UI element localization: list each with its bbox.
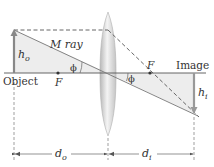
image-label: Image: [176, 59, 209, 71]
angle-label-right: ϕ: [128, 73, 135, 84]
object-distance-label: do: [55, 147, 67, 162]
angle-label-left: ϕ: [70, 62, 77, 73]
dim-arrowhead-left: [15, 152, 20, 156]
object-label: Object: [3, 75, 39, 87]
thin-lens-diagram: M ray ho Object F F Image ϕ ϕ hi do di: [0, 0, 214, 167]
dim-arrowhead-mid: [109, 152, 114, 156]
image-height-label: hi: [198, 86, 208, 101]
m-ray-label: M ray: [49, 38, 84, 51]
focal-label-right: F: [146, 59, 155, 71]
focal-label-left: F: [54, 76, 63, 88]
image-distance-label: di: [142, 147, 152, 162]
focal-point-left: [56, 71, 59, 74]
focal-point-right: [148, 71, 151, 74]
